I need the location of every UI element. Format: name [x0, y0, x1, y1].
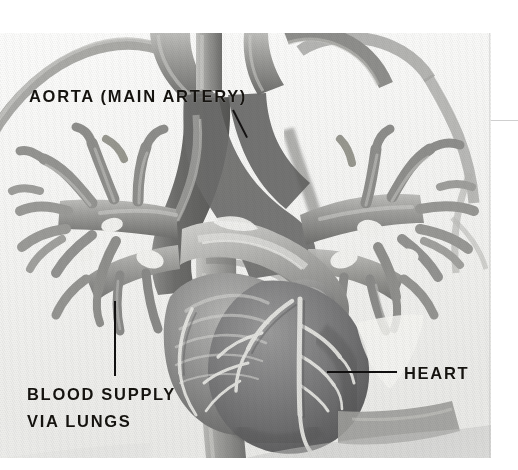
- blood-supply-leader-line: [114, 301, 116, 376]
- label-heart: HEART: [404, 360, 469, 387]
- label-blood-supply-line1: BLOOD SUPPLY: [27, 381, 176, 408]
- heart-leader-line: [327, 371, 397, 373]
- plate-right-edge: [489, 33, 491, 458]
- label-aorta: AORTA (MAIN ARTERY): [29, 83, 247, 110]
- figure-page: AORTA (MAIN ARTERY) BLOOD SUPPLY VIA LUN…: [0, 0, 518, 470]
- label-blood-supply-line2: VIA LUNGS: [27, 408, 176, 435]
- edge-rule: [491, 120, 518, 121]
- label-blood-supply-via-lungs: BLOOD SUPPLY VIA LUNGS: [27, 381, 176, 435]
